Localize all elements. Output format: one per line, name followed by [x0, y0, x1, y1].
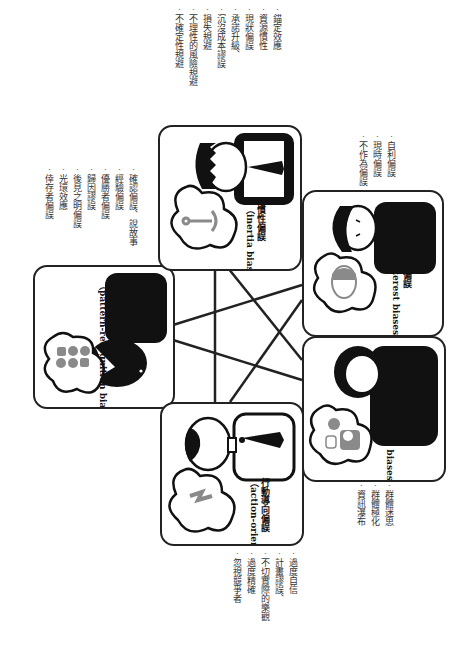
list-item: 過度自信 — [286, 552, 300, 632]
category-title-en: （inertia biases） — [244, 205, 255, 267]
category-title-en: （pattern-recognition biases） — [97, 281, 108, 401]
category-title-zh: 慣性偏誤 — [255, 205, 266, 267]
list-item: 現時偏誤 — [370, 135, 384, 185]
list-item: 資訊瀑布 — [354, 484, 368, 534]
person-illustration — [304, 192, 442, 335]
category-title-zh: 模式辨認偏誤 — [108, 281, 119, 401]
list-item: 群體極化 — [368, 484, 382, 534]
category-label: 社會偏誤 （social biases） — [384, 408, 406, 478]
list-item: 現狀偏誤 — [242, 8, 256, 118]
pattern-recognition-box: 模式辨認偏誤 （pattern-recognition biases） — [33, 265, 175, 409]
category-title-zh: 利益偏誤 — [401, 252, 412, 332]
list-item: 自利偏誤 — [384, 135, 398, 185]
category-label: 模式辨認偏誤 （pattern-recognition biases） — [97, 281, 119, 401]
category-title-en: （social biases） — [384, 408, 395, 478]
interest-box: 利益偏誤 （interest biases） — [302, 190, 444, 337]
category-title-zh: 社會偏誤 — [395, 408, 406, 478]
list-item: 經驗偏誤 — [112, 168, 126, 268]
list-item: 計畫謬誤、 — [272, 552, 286, 632]
social-bias-list: 群體迷思 群體極化 資訊瀑布 — [354, 484, 396, 534]
list-item: 群體迷思 — [382, 484, 396, 534]
action-bias-list: 過度自信 計畫謬誤、 不切實際的樂觀 過度精確 忽視競爭者 — [230, 552, 300, 632]
interest-bias-list: 自利偏誤 現時偏誤 不作為偏誤 — [356, 135, 398, 185]
category-label: 利益偏誤 （interest biases） — [390, 252, 412, 332]
list-item: 過度精確 — [244, 552, 258, 632]
inertia-box: 慣性偏誤 （inertia biases） — [158, 125, 302, 271]
list-item: 不切實際的樂觀 — [258, 552, 272, 632]
face-icon — [332, 266, 356, 298]
category-title-zh: 行動導向偏誤 — [259, 478, 270, 542]
list-item: 確認偏誤、說故事 — [126, 168, 140, 268]
category-title-en: （action-oriented biases） — [248, 478, 259, 542]
person-illustration — [160, 127, 300, 269]
category-label: 行動導向偏誤 （action-oriented biases） — [248, 478, 270, 542]
person-illustration — [162, 404, 302, 544]
list-item: 後見之明偏誤 — [70, 168, 84, 268]
category-label: 慣性偏誤 （inertia biases） — [244, 205, 266, 267]
inertia-bias-list: 錨定效應 資源慣性 現狀偏誤 承諾升級、 沉沒成本謬誤 損失規避 不理性的風險規… — [172, 8, 284, 118]
list-item: 承諾升級、 — [228, 8, 242, 118]
action-oriented-box: 行動導向偏誤 （action-oriented biases） — [160, 402, 304, 546]
list-item: 沉沒成本謬誤 — [214, 8, 228, 118]
list-item: 不確定性規避 — [172, 8, 186, 118]
social-box: 社會偏誤 （social biases） — [302, 336, 446, 482]
list-item: 錨定效應 — [270, 8, 284, 118]
list-item: 損失規避 — [200, 8, 214, 118]
list-item: 忽視競爭者 — [230, 552, 244, 632]
person-illustration — [304, 338, 444, 480]
list-item: 不作為偏誤 — [356, 135, 370, 185]
list-item: 資源慣性 — [256, 8, 270, 118]
pattern-bias-list: 確認偏誤、說故事 經驗偏誤 優勝者偏誤 歸因謬誤 後見之明偏誤 光環效應 倖存者… — [42, 168, 140, 268]
list-item: 倖存者偏誤 — [42, 168, 56, 268]
category-title-en: （interest biases） — [390, 252, 401, 332]
list-item: 不理性的風險規避 — [186, 8, 200, 118]
list-item: 優勝者偏誤 — [98, 168, 112, 268]
list-item: 光環效應 — [56, 168, 70, 268]
list-item: 歸因謬誤 — [84, 168, 98, 268]
